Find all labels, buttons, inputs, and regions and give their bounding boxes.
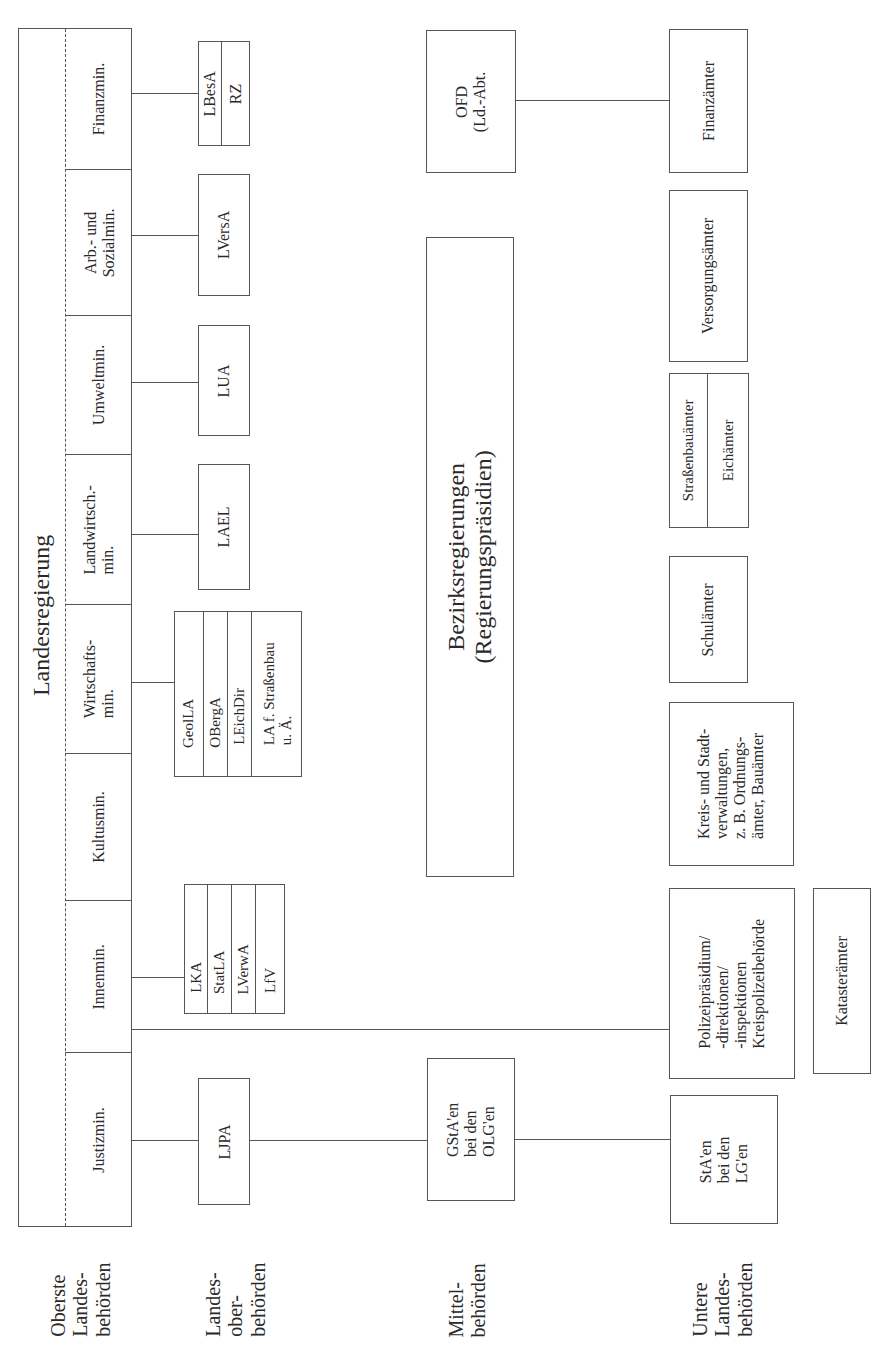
la-strassenbau-label: LA f. Straßenbauu. Ä.: [252, 612, 302, 776]
connector-arbeit: [131, 235, 198, 236]
lverwa-label: LVerwA: [232, 885, 255, 1013]
connector-innen-polizei: [131, 1029, 670, 1030]
lbesa-label: LBesA: [199, 42, 221, 145]
versorgungsaemter-label: Versorgungsämter: [669, 190, 748, 362]
connector-wirtschaft: [131, 682, 174, 683]
ministry-justiz: Justizmin.: [66, 1053, 132, 1226]
connector-justiz-ljpa: [131, 1140, 199, 1141]
ljpa-label: LJPA: [198, 1078, 250, 1205]
katasteraemter-label: Katasterämter: [813, 888, 871, 1074]
connector-umwelt: [131, 382, 198, 383]
lael-label: LAEL: [198, 464, 250, 590]
ministry-wirtschaft: Wirtschafts-min.: [66, 605, 132, 753]
lua-label: LUA: [198, 325, 250, 436]
ministry-innen: Innenmin.: [66, 901, 132, 1052]
level-label-landesober: Landes-ober-behörden: [195, 1240, 275, 1360]
connector-landwirtschaft: [131, 534, 198, 535]
sta-label: StA'enbei denLG'en: [670, 1095, 778, 1224]
ministry-kultus: Kultusmin.: [66, 754, 132, 900]
strassenbauaemter-label: Straßenbauämter: [670, 374, 707, 527]
ofd-label: OFD(Ld.-Abt.: [426, 30, 516, 173]
ministry-umwelt: Umweltmin.: [66, 316, 132, 454]
connector-finanz: [131, 93, 198, 94]
connector-gsta-sta: [514, 1139, 671, 1140]
finanzaemter-label: Finanzämter: [669, 29, 748, 173]
schulaemter-label: Schulämter: [669, 556, 748, 683]
polizei-label: Polizeipräsidium/-direktionen/-inspektio…: [669, 888, 795, 1079]
connector-ljpa-gsta: [250, 1140, 427, 1141]
oberga-label: OBergA: [204, 612, 227, 776]
ministry-arbeit-soziales: Arb.- undSozialmin.: [66, 170, 132, 315]
geolla-label: GeolLA: [175, 612, 203, 776]
leichdir-label: LEichDir: [228, 612, 251, 776]
connector-innen-landesober: [131, 977, 184, 978]
landesregierung-title: Landesregierung: [18, 450, 65, 780]
gsta-label: GStA'enbei denOLG'en: [427, 1058, 515, 1201]
kreis-stadt-label: Kreis- und Stadt-verwaltungen,z. B. Ordn…: [669, 702, 794, 866]
ministry-finanz: Finanzmin.: [66, 29, 132, 169]
rz-label: RZ: [222, 42, 250, 145]
level-label-oberste: ObersteLandes-behörden: [40, 1240, 120, 1360]
statla-label: StatLA: [208, 885, 231, 1013]
lversa-label: LVersA: [198, 174, 250, 296]
eichaemter-label: Eichämter: [708, 374, 749, 527]
level-label-untere: UntereLandes-behörden: [682, 1240, 762, 1360]
level-label-mittel: Mittel-behörden: [437, 1240, 497, 1360]
lka-label: LKA: [185, 885, 207, 1013]
lfv-label: LfV: [256, 885, 284, 1013]
bezirksregierungen-label: Bezirksregierungen(Regierungspräsidien): [426, 237, 514, 877]
ministry-landwirtschaft: Landwirtsch.-min.: [66, 455, 132, 604]
connector-ofd-finanzaemter: [514, 100, 669, 101]
